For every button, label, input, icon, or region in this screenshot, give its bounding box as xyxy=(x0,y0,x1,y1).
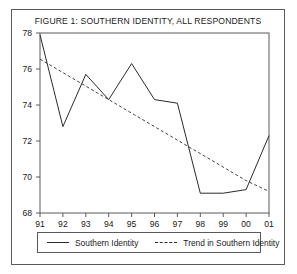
y-axis-tick-label: 72 xyxy=(16,136,32,146)
y-axis-tick-label: 70 xyxy=(16,172,32,182)
data-line xyxy=(40,35,269,193)
x-axis-tick-label: 96 xyxy=(146,219,164,229)
figure-container: FIGURE 1: SOUTHERN IDENTITY, ALL RESPOND… xyxy=(11,9,285,265)
x-axis-tick-label: 99 xyxy=(214,219,232,229)
x-axis-tick-label: 92 xyxy=(54,219,72,229)
legend-entry-trend: Trend in Southern Identity xyxy=(155,238,279,248)
solid-line-icon xyxy=(47,242,69,243)
legend-label-southern-identity: Southern Identity xyxy=(75,238,138,248)
x-axis-tick-label: 95 xyxy=(123,219,141,229)
x-axis-tick-label: 94 xyxy=(100,219,118,229)
x-axis-tick-label: 01 xyxy=(260,219,278,229)
y-axis-tick-label: 68 xyxy=(16,208,32,218)
y-axis-tick-label: 78 xyxy=(16,28,32,38)
dashed-line-icon xyxy=(155,242,177,243)
legend-entry-southern-identity: Southern Identity xyxy=(47,238,138,248)
plot-frame xyxy=(40,33,269,213)
trend-line xyxy=(40,59,269,191)
x-axis-tick-label: 93 xyxy=(77,219,95,229)
x-axis-tick-label: 91 xyxy=(31,219,49,229)
chart-legend: Southern Identity Trend in Southern Iden… xyxy=(37,232,261,253)
x-axis-tick-label: 98 xyxy=(191,219,209,229)
y-axis-tick-label: 76 xyxy=(16,64,32,74)
legend-label-trend: Trend in Southern Identity xyxy=(183,238,279,248)
y-axis-tick-label: 74 xyxy=(16,100,32,110)
x-axis-tick-label: 97 xyxy=(168,219,186,229)
x-axis-tick-label: 00 xyxy=(237,219,255,229)
